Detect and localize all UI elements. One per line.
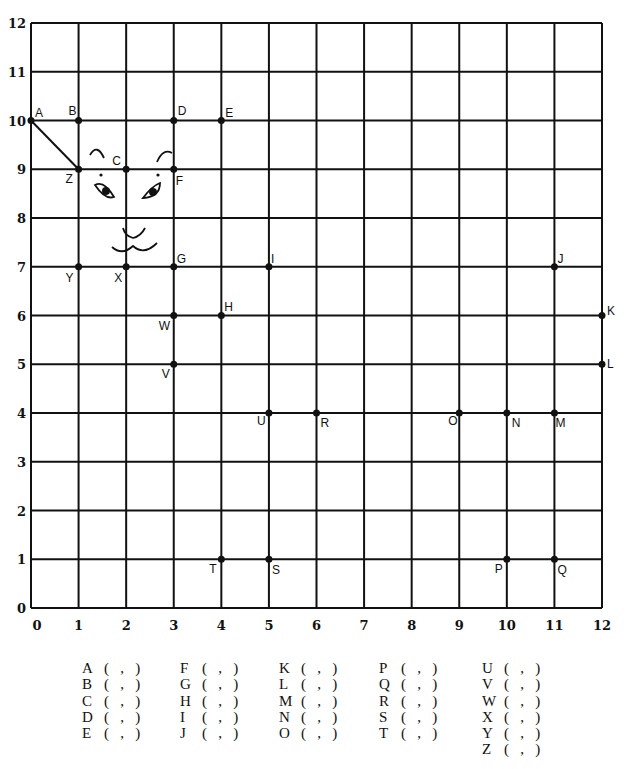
answer-row: V( , ) — [482, 676, 540, 692]
answer-row: J( , ) — [180, 725, 238, 741]
coordinate-blank[interactable]: ( , ) — [301, 725, 337, 741]
point-s — [265, 556, 272, 563]
coordinate-blank[interactable]: ( , ) — [301, 660, 337, 676]
point-label-i: I — [271, 252, 274, 266]
x-tick-label: 2 — [122, 618, 131, 633]
point-label-y: Y — [66, 271, 74, 285]
answer-row: H( , ) — [180, 693, 238, 709]
answer-row: U( , ) — [482, 660, 540, 676]
coordinate-blank[interactable]: ( , ) — [504, 693, 540, 709]
answer-row: T( , ) — [379, 725, 437, 741]
point-label-u: U — [257, 414, 266, 428]
answer-row: R( , ) — [379, 693, 437, 709]
coordinate-blank[interactable]: ( , ) — [504, 660, 540, 676]
y-tick-label: 6 — [17, 309, 26, 324]
coordinate-blank[interactable]: ( , ) — [301, 709, 337, 725]
point-letter: Z — [482, 741, 504, 757]
coordinate-blank[interactable]: ( , ) — [401, 676, 437, 692]
coordinate-blank[interactable]: ( , ) — [504, 741, 540, 757]
point-letter: A — [82, 660, 104, 676]
answer-row: F( , ) — [180, 660, 238, 676]
point-n — [503, 410, 510, 417]
coordinate-blank[interactable]: ( , ) — [401, 709, 437, 725]
coordinate-blank[interactable]: ( , ) — [202, 709, 238, 725]
coordinate-blank[interactable]: ( , ) — [504, 676, 540, 692]
point-letter: D — [82, 709, 104, 725]
point-p — [503, 556, 510, 563]
point-letter: P — [379, 660, 401, 676]
point-letter: U — [482, 660, 504, 676]
point-label-m: M — [555, 416, 565, 430]
point-letter: N — [279, 709, 301, 725]
x-tick-label: 8 — [407, 618, 416, 633]
answer-row: M( , ) — [279, 693, 337, 709]
answer-row: N( , ) — [279, 709, 337, 725]
right-pupil — [149, 188, 157, 196]
y-tick-label: 10 — [8, 114, 26, 129]
point-e — [218, 117, 225, 124]
point-label-f: F — [176, 174, 183, 188]
point-label-v: V — [162, 367, 170, 381]
point-letter: G — [180, 676, 202, 692]
x-tick-label: 1 — [74, 618, 83, 633]
y-tick-label: 5 — [17, 357, 26, 372]
point-z — [75, 166, 82, 173]
point-label-r: R — [321, 416, 330, 430]
point-x — [123, 263, 130, 270]
coordinate-blank[interactable]: ( , ) — [202, 693, 238, 709]
coordinate-blank[interactable]: ( , ) — [104, 676, 140, 692]
x-tick-label: 4 — [217, 618, 226, 633]
coordinate-blank[interactable]: ( , ) — [504, 709, 540, 725]
point-w — [170, 312, 177, 319]
coordinate-blank[interactable]: ( , ) — [301, 676, 337, 692]
left-pupil — [102, 187, 110, 195]
point-u — [265, 410, 272, 417]
answer-row: Z( , ) — [482, 741, 540, 757]
point-letter: T — [379, 725, 401, 741]
point-letter: O — [279, 725, 301, 741]
coordinate-blank[interactable]: ( , ) — [504, 725, 540, 741]
coordinate-blank[interactable]: ( , ) — [401, 693, 437, 709]
coordinate-blank[interactable]: ( , ) — [104, 693, 140, 709]
point-letter: V — [482, 676, 504, 692]
coordinate-grid: 01234567891011120123456789101112ABCDEFGH… — [0, 0, 631, 650]
coordinate-blank[interactable]: ( , ) — [401, 660, 437, 676]
coordinate-blank[interactable]: ( , ) — [202, 676, 238, 692]
point-label-q: Q — [557, 563, 566, 577]
point-label-e: E — [225, 106, 233, 120]
point-letter: X — [482, 709, 504, 725]
cat-face-drawing — [90, 150, 172, 252]
point-label-o: O — [448, 414, 457, 428]
y-tick-label: 0 — [17, 601, 26, 616]
coordinate-blank[interactable]: ( , ) — [104, 725, 140, 741]
point-letter: B — [82, 676, 104, 692]
point-label-d: D — [178, 104, 187, 118]
point-label-n: N — [512, 416, 521, 430]
right-whisker-dot — [156, 173, 159, 176]
point-letter: F — [180, 660, 202, 676]
coordinate-blank[interactable]: ( , ) — [202, 725, 238, 741]
x-tick-label: 11 — [545, 618, 563, 633]
answer-row: P( , ) — [379, 660, 437, 676]
point-a — [28, 117, 35, 124]
point-k — [599, 312, 606, 319]
coordinate-answer-sheet: A( , )B( , )C( , )D( , )E( , )F( , )G( ,… — [82, 660, 582, 769]
y-tick-label: 2 — [17, 504, 26, 519]
coordinate-blank[interactable]: ( , ) — [401, 725, 437, 741]
answer-row: S( , ) — [379, 709, 437, 725]
answer-row: X( , ) — [482, 709, 540, 725]
x-tick-label: 7 — [360, 618, 369, 633]
coordinate-blank[interactable]: ( , ) — [202, 660, 238, 676]
answer-column: K( , )L( , )M( , )N( , )O( , ) — [279, 660, 337, 741]
answer-column: P( , )Q( , )R( , )S( , )T( , ) — [379, 660, 437, 741]
point-label-s: S — [272, 563, 280, 577]
coordinate-blank[interactable]: ( , ) — [301, 693, 337, 709]
coordinate-blank[interactable]: ( , ) — [104, 660, 140, 676]
line-segment — [31, 121, 79, 170]
coordinate-blank[interactable]: ( , ) — [104, 709, 140, 725]
x-tick-label: 10 — [498, 618, 516, 633]
x-tick-label: 5 — [264, 618, 273, 633]
answer-column: F( , )G( , )H( , )I( , )J( , ) — [180, 660, 238, 741]
point-letter: H — [180, 693, 202, 709]
right-eyebrow — [157, 152, 172, 162]
